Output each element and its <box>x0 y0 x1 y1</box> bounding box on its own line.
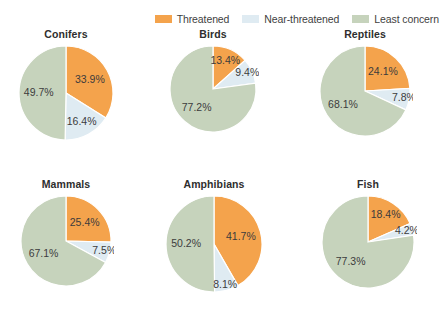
pie-slice-label: 13.4% <box>210 54 240 66</box>
pie-graphic: 41.7%8.1%50.2% <box>163 193 265 295</box>
pie-chart-reptiles: Reptiles24.1%7.8%68.1% <box>291 28 439 180</box>
pie-slice-label: 16.4% <box>67 115 97 127</box>
legend-swatch-threatened <box>155 15 172 23</box>
pie-chart-title: Amphibians <box>140 178 288 190</box>
pie-slice-label: 4.2% <box>395 224 417 236</box>
legend-swatch-near-threatened <box>242 15 259 23</box>
pie-chart-title: Reptiles <box>291 28 439 40</box>
legend-swatch-least-concern <box>352 15 369 23</box>
pie-slice-label: 41.7% <box>226 230 256 242</box>
pie-slice-label: 8.1% <box>213 278 237 290</box>
chart-legend: ThreatenedNear-threatenedLeast concern <box>0 10 446 28</box>
pie-chart-title: Fish <box>294 178 442 190</box>
pie-slice-label: 18.4% <box>371 208 401 220</box>
pie-slice-label: 33.9% <box>75 73 105 85</box>
pie-slice-label: 77.2% <box>182 101 212 113</box>
pie-chart-fish: Fish18.4%4.2%77.3% <box>294 178 442 330</box>
pie-graphic: 25.4%7.5%67.1% <box>18 193 114 289</box>
pie-graphic: 24.1%7.8%68.1% <box>317 43 413 139</box>
legend-item-least-concern[interactable]: Least concern <box>352 13 439 25</box>
pie-slice-label: 77.3% <box>336 255 366 267</box>
pie-slice-label: 7.8% <box>392 91 413 103</box>
legend-item-near-threatened[interactable]: Near-threatened <box>242 13 339 25</box>
pie-chart-conifers: Conifers33.9%16.4%49.7% <box>0 28 140 180</box>
pie-chart-birds: Birds13.4%9.4%77.2% <box>139 28 287 180</box>
pie-chart-mammals: Mammals25.4%7.5%67.1% <box>0 178 140 330</box>
pie-chart-title: Birds <box>139 28 287 40</box>
pie-slice-label: 25.4% <box>70 216 100 228</box>
pie-slice-label: 9.4% <box>235 66 259 78</box>
legend-label: Near-threatened <box>264 13 339 25</box>
pie-slice-label: 49.7% <box>24 86 54 98</box>
pie-slice-label: 68.1% <box>328 98 358 110</box>
pie-graphic: 13.4%9.4%77.2% <box>167 43 259 135</box>
pie-graphic: 18.4%4.2%77.3% <box>319 193 417 291</box>
pie-slice-label: 50.2% <box>171 237 201 249</box>
pie-slice-label: 7.5% <box>92 244 114 256</box>
legend-label: Least concern <box>374 13 439 25</box>
pie-chart-grid: Conifers33.9%16.4%49.7%Birds13.4%9.4%77.… <box>0 30 446 334</box>
pie-chart-amphibians: Amphibians41.7%8.1%50.2% <box>140 178 288 330</box>
pie-graphic: 33.9%16.4%49.7% <box>16 43 116 143</box>
pie-chart-title: Conifers <box>0 28 140 40</box>
legend-label: Threatened <box>177 13 230 25</box>
legend-item-threatened[interactable]: Threatened <box>155 13 230 25</box>
pie-slice-label: 24.1% <box>368 65 398 77</box>
pie-slice-label: 67.1% <box>29 247 59 259</box>
pie-chart-title: Mammals <box>0 178 140 190</box>
